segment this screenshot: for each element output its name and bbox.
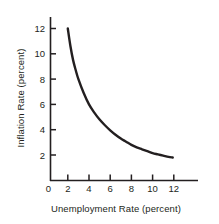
x-axis-title: Unemployment Rate (percent) bbox=[20, 203, 212, 215]
y-axis-tick-labels: 12 10 8 6 4 2 bbox=[34, 23, 45, 161]
y-tick-label: 12 bbox=[34, 23, 45, 34]
y-tick-label: 2 bbox=[40, 150, 45, 161]
x-tick-label: 0 bbox=[46, 183, 51, 194]
phillips-curve-line bbox=[68, 29, 173, 158]
y-tick-label: 8 bbox=[40, 74, 45, 85]
plot-area: 12 10 8 6 4 2 0 2 4 6 8 10 12 bbox=[0, 0, 219, 224]
x-tick-label: 10 bbox=[147, 183, 158, 194]
x-axis-ticks bbox=[68, 175, 174, 181]
x-tick-label: 2 bbox=[65, 183, 70, 194]
phillips-curve-chart: Inflation Rate (percent) 12 10 8 bbox=[0, 0, 219, 224]
y-tick-label: 6 bbox=[40, 99, 45, 110]
x-axis-tick-labels: 0 2 4 6 8 10 12 bbox=[46, 183, 179, 194]
x-tick-label: 12 bbox=[169, 183, 180, 194]
y-tick-label: 10 bbox=[34, 48, 45, 59]
x-tick-label: 6 bbox=[108, 183, 113, 194]
y-tick-label: 4 bbox=[40, 124, 45, 135]
y-axis-ticks bbox=[51, 29, 57, 156]
x-tick-label: 4 bbox=[86, 183, 91, 194]
x-tick-label: 8 bbox=[129, 183, 134, 194]
